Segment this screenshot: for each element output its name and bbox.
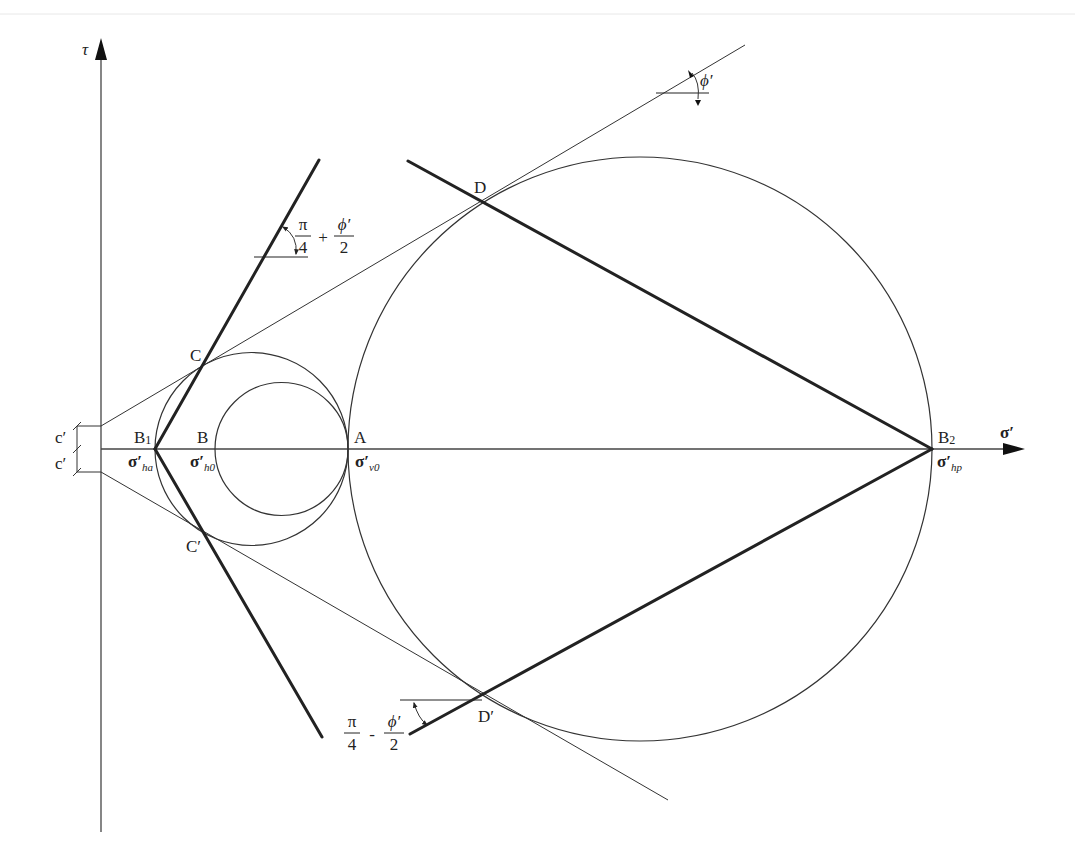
svg-text:ϕ′: ϕ′ — [338, 215, 351, 234]
tau-axis-arrow-icon — [95, 38, 107, 60]
svg-text:A: A — [354, 428, 367, 447]
svg-text:2: 2 — [340, 238, 349, 257]
failure-envelope-lower — [101, 472, 668, 800]
point-d-label: D — [474, 178, 486, 197]
angle-passive-annotation: π 4 - ϕ′ 2 — [344, 700, 482, 754]
point-b2: B2 σ′hp — [937, 428, 963, 473]
tau-axis-label: τ — [82, 40, 89, 59]
failure-envelope-upper — [101, 45, 745, 426]
angle-arc-icon — [414, 703, 427, 725]
point-d-prime-label: D′ — [478, 707, 494, 726]
svg-text:σ′ha: σ′ha — [128, 452, 154, 473]
point-b: B σ′h0 — [190, 428, 216, 473]
slip-line-active-lower — [155, 449, 322, 737]
slip-line-passive-lower — [410, 449, 932, 734]
slip-line-active-upper — [155, 160, 319, 449]
svg-text:4: 4 — [348, 735, 357, 754]
svg-text:+: + — [318, 228, 328, 247]
svg-text:π: π — [348, 712, 357, 731]
cohesion-label-lower: c′ — [55, 454, 66, 473]
svg-text:π: π — [299, 215, 308, 234]
tau-axis: τ — [82, 38, 107, 832]
sigma-axis: σ′ — [101, 423, 1025, 455]
svg-text:ϕ′: ϕ′ — [700, 71, 713, 90]
svg-text:B: B — [197, 428, 208, 447]
cohesion-markers: c′ c′ — [55, 422, 101, 476]
angle-arc-icon — [692, 73, 698, 99]
svg-text:B2: B2 — [938, 428, 955, 447]
svg-text:B1: B1 — [134, 428, 151, 447]
svg-text:σ′v0: σ′v0 — [355, 452, 380, 473]
svg-text:2: 2 — [390, 735, 399, 754]
slip-line-passive-upper — [408, 161, 932, 449]
svg-text:-: - — [369, 725, 375, 744]
sigma-axis-arrow-icon — [1003, 443, 1025, 455]
point-c-prime-label: C′ — [186, 537, 201, 556]
point-c-label: C — [190, 346, 201, 365]
svg-text:4: 4 — [299, 238, 308, 257]
mohr-diagram: τ σ′ c′ c′ B1 σ′ha B σ′h0 A σ′v0 — [0, 0, 1075, 861]
svg-text:σ′h0: σ′h0 — [190, 452, 216, 473]
angle-friction-annotation: ϕ′ — [656, 70, 713, 106]
angle-arrow-icon — [695, 100, 701, 106]
svg-text:σ′hp: σ′hp — [937, 452, 963, 473]
sigma-axis-label: σ′ — [1000, 423, 1014, 442]
cohesion-label-upper: c′ — [55, 428, 66, 447]
svg-text:ϕ′: ϕ′ — [388, 712, 401, 731]
point-b1: B1 σ′ha — [128, 428, 154, 473]
angle-arc-icon — [283, 227, 296, 254]
point-a: A σ′v0 — [354, 428, 380, 473]
